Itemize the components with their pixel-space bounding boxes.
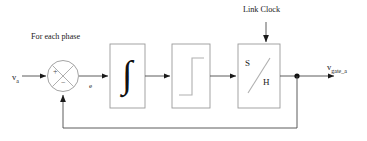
- output-signal-subscript: gate_a: [331, 68, 347, 74]
- slash-icon: [248, 58, 270, 93]
- input-signal-label: va: [12, 72, 19, 84]
- integral-icon: ∫: [120, 53, 135, 98]
- feedback-path: [63, 76, 297, 128]
- link-clock-label: Link Clock: [243, 6, 280, 14]
- hold-label: H: [263, 78, 270, 87]
- output-signal-line: [280, 73, 334, 78]
- for-each-phase-label: For each phase: [31, 33, 80, 41]
- error-label: e: [89, 83, 92, 90]
- minus-sign: −: [61, 79, 66, 87]
- input-signal-subscript: a: [16, 78, 19, 84]
- integrator-block: ∫: [110, 44, 145, 108]
- relay-block: [172, 44, 210, 108]
- plus-sign: +: [53, 68, 58, 76]
- output-signal-label: vgate_a: [327, 62, 347, 74]
- step-waveform-icon: [179, 58, 204, 95]
- sample-hold-block: [238, 44, 280, 108]
- block-diagram-canvas: ∫ For e: [0, 0, 367, 141]
- sample-label: S: [245, 59, 250, 68]
